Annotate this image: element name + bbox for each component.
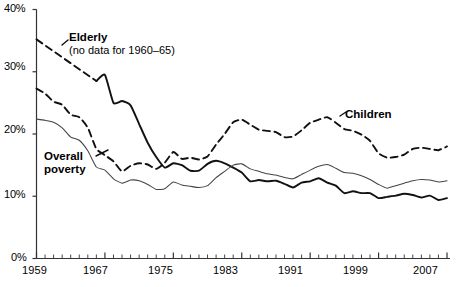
annotation-overall-line1: Overall [44,150,86,163]
y-tick-label-10: 10% [4,188,25,200]
annotation-elderly-note: (no data for 1960–65) [69,44,175,57]
annotation-leader-lines [62,40,346,156]
x-tick-label-1967: 1967 [83,264,108,276]
annotation-children-title: Children [345,108,392,121]
x-tick-label-1999: 1999 [343,264,368,276]
y-tick-label-0: 0% [11,251,27,263]
x-tick-label-1975: 1975 [148,264,173,276]
y-tick-label-20: 20% [4,123,25,135]
x-tick-label-1983: 1983 [213,264,238,276]
y-tick-label-30: 30% [4,60,25,72]
x-tick-label-1959: 1959 [22,264,47,276]
annotation-overall-poverty: Overall poverty [44,150,86,176]
x-tick-label-2007: 2007 [413,264,438,276]
y-tick-label-40: 40% [4,2,25,14]
x-tick-label-1991: 1991 [278,264,303,276]
annotation-overall-line2: poverty [44,163,86,176]
annotation-elderly: Elderly (no data for 1960–65) [69,31,175,57]
annotation-elderly-title: Elderly [69,31,175,44]
annotation-children: Children [345,108,392,121]
series-children [37,89,448,172]
chart-figure: 40% 30% 20% 10% 0% 1959 1967 1975 1983 1… [0,0,464,287]
